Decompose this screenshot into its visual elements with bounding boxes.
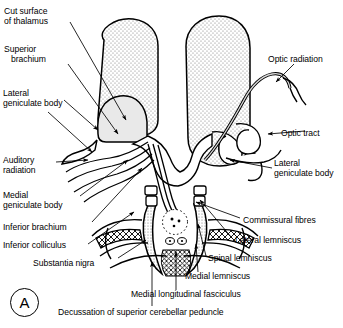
- lateral-geniculate-body-left-shape: [98, 96, 147, 142]
- label-substantia-nigra: Substantia nigra: [33, 258, 94, 268]
- anatomy-figure-panel-a: Cut surface of thalamus Superior brachiu…: [0, 0, 343, 328]
- label-lateral-geniculate-body-left: Lateral geniculate body: [3, 88, 62, 109]
- label-cut-surface-of-thalamus: Cut surface of thalamus: [4, 6, 48, 27]
- cerebral-aqueduct: [163, 210, 188, 235]
- label-medial-longitudinal-fasciculus: Medial longitudinal fasciculus: [131, 289, 241, 299]
- leader-lateral-geniculate-body-left: [64, 100, 98, 130]
- leader-inferior-brachium: [92, 168, 142, 222]
- label-optic-tract: Optic tract: [281, 128, 320, 138]
- leader-lgb-2: [48, 112, 92, 152]
- label-commissural-fibres: Commissural fibres: [243, 215, 316, 225]
- periaqueductal-nuclei: [166, 238, 187, 245]
- label-spinal-lemniscus: Spinal lemniscus: [208, 253, 272, 263]
- label-inferior-colliculus: Inferior colliculus: [3, 240, 66, 250]
- panel-letter-a: A: [10, 288, 39, 317]
- label-lateral-lemniscus: Lateral lemniscus: [235, 235, 301, 245]
- label-lateral-geniculate-body-right: Lateral geniculate body: [274, 158, 333, 179]
- label-optic-radiation: Optic radiation: [268, 54, 323, 64]
- label-medial-lemniscus: Medial lemniscus: [185, 271, 250, 281]
- label-superior-brachium: Superior brachium: [4, 44, 46, 65]
- label-decussation-of-superior-cerebellar-peduncle: Decussation of superior cerebellar pedun…: [58, 307, 224, 317]
- leader-substantia-nigra: [118, 240, 146, 258]
- label-inferior-brachium: Inferior brachium: [3, 222, 67, 232]
- label-auditory-radiation: Auditory radiation: [3, 155, 36, 176]
- label-medial-geniculate-body: Medial geniculate body: [3, 190, 62, 211]
- substantia-nigra-band-left: [96, 229, 142, 248]
- lemniscus-band-left: [143, 186, 162, 274]
